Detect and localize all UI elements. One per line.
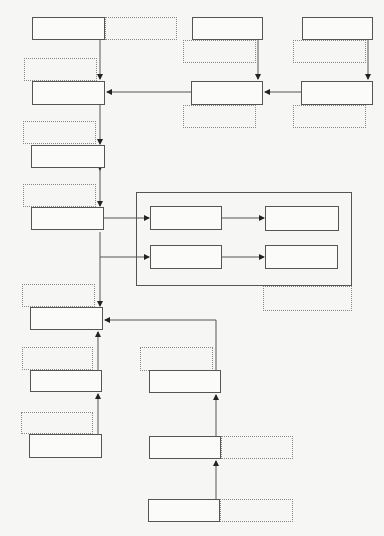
annotation-box bbox=[23, 184, 96, 207]
annotation-box bbox=[183, 105, 256, 128]
process-box-b3[interactable] bbox=[148, 499, 220, 522]
annotation-box bbox=[21, 412, 93, 434]
annotation-box bbox=[24, 58, 97, 81]
annotation-box bbox=[22, 284, 95, 307]
annotation-box bbox=[183, 40, 256, 63]
group-box-4[interactable] bbox=[265, 245, 338, 269]
process-box-l1[interactable] bbox=[32, 17, 105, 40]
flowchart-canvas bbox=[0, 0, 384, 536]
process-box-b2[interactable] bbox=[149, 436, 221, 459]
process-box-b1[interactable] bbox=[149, 370, 221, 393]
process-box-l3[interactable] bbox=[31, 145, 105, 168]
process-box-l6[interactable] bbox=[30, 370, 102, 392]
annotation-box bbox=[105, 17, 177, 40]
process-box-l2[interactable] bbox=[32, 81, 105, 105]
group-box-1[interactable] bbox=[150, 206, 222, 230]
annotation-box bbox=[293, 105, 366, 128]
process-box-l5[interactable] bbox=[30, 307, 103, 330]
annotation-box bbox=[140, 347, 213, 371]
process-box-m1[interactable] bbox=[192, 17, 263, 40]
process-box-m2[interactable] bbox=[191, 81, 263, 105]
process-box-r1[interactable] bbox=[302, 17, 373, 40]
annotation-box bbox=[220, 499, 293, 522]
group-box-2[interactable] bbox=[265, 206, 339, 231]
annotation-box bbox=[263, 286, 352, 311]
process-box-r2[interactable] bbox=[301, 81, 373, 105]
annotation-box bbox=[22, 347, 93, 370]
annotation-box bbox=[221, 436, 293, 459]
process-box-l4[interactable] bbox=[31, 207, 104, 230]
annotation-box bbox=[23, 121, 96, 144]
process-box-l7[interactable] bbox=[29, 434, 102, 458]
group-box-3[interactable] bbox=[150, 245, 222, 269]
annotation-box bbox=[293, 40, 366, 63]
